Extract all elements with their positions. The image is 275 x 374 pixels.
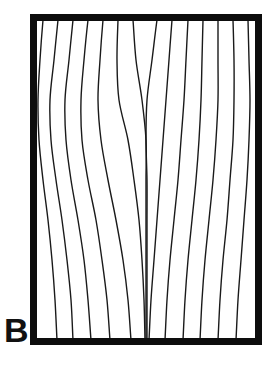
field-line-diagram — [0, 0, 275, 374]
figure-panel: B — [0, 0, 275, 374]
panel-label-b: B — [4, 311, 30, 349]
